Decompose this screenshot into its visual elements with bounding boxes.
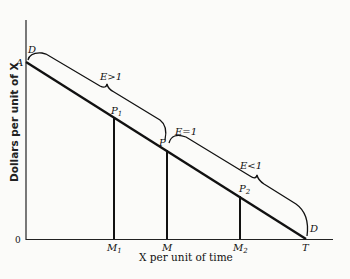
x-axis-label: X per unit of time bbox=[139, 251, 233, 263]
label-inelastic: E<1 bbox=[239, 160, 262, 171]
label-t: T bbox=[302, 242, 310, 253]
y-axis-label: Dollars per unit of X bbox=[8, 62, 20, 182]
elasticity-diagram: Dollars per unit of X X per unit of time… bbox=[0, 0, 350, 279]
label-p: P bbox=[158, 137, 166, 148]
label-m: M bbox=[161, 242, 173, 253]
label-m1: M1 bbox=[106, 242, 122, 255]
label-m2: M2 bbox=[232, 242, 248, 255]
label-unit-elastic: E=1 bbox=[174, 126, 197, 137]
origin-label: 0 bbox=[15, 235, 21, 245]
label-d-top: D bbox=[27, 44, 36, 55]
label-elastic: E>1 bbox=[99, 71, 122, 82]
label-a: A bbox=[15, 57, 23, 68]
brace-elastic bbox=[28, 53, 166, 140]
label-d-bottom: D bbox=[309, 223, 318, 234]
label-p2: P2 bbox=[238, 183, 251, 196]
